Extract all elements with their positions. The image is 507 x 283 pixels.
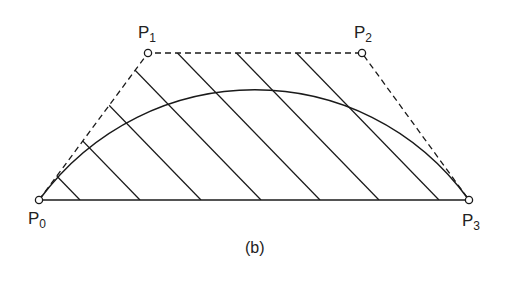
hatch-line	[0, 40, 140, 200]
control-polygon	[39, 53, 469, 200]
control-point-p2	[358, 49, 365, 56]
hatch-line	[0, 40, 80, 200]
hatch-line	[224, 40, 379, 200]
label-p1: P1	[138, 23, 156, 45]
hatch-line	[284, 40, 439, 200]
control-point-p3	[465, 196, 472, 203]
bezier-diagram: P0 P1 P2 P3 (b)	[0, 0, 507, 283]
label-p2: P2	[354, 23, 372, 45]
control-point-p0	[35, 196, 42, 203]
figure-caption: (b)	[245, 239, 265, 256]
hatch-lines	[0, 40, 439, 200]
label-p3: P3	[462, 211, 480, 233]
hatch-line	[106, 40, 261, 200]
label-p0: P0	[28, 209, 46, 231]
hatch-line	[46, 40, 201, 200]
bezier-curve	[39, 90, 469, 200]
hatch-line	[165, 40, 320, 200]
control-point-p1	[144, 49, 151, 56]
